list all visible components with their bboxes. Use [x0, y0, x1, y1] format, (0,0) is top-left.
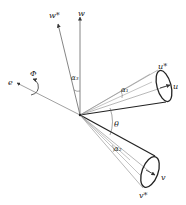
e-axis: [17, 83, 80, 115]
w-star-axis: [58, 24, 80, 115]
u-label: u: [173, 82, 178, 91]
theta-label: θ: [114, 120, 119, 129]
phi-label: Φ: [30, 69, 37, 78]
vector-diagram: w* w α₃ e Φ u* u α₁ θ α₂ v v*: [0, 0, 186, 205]
e-label: e: [8, 78, 13, 87]
alpha2-label: α₂: [114, 145, 122, 153]
v-label: v: [161, 173, 166, 182]
v-star-label: v*: [139, 191, 148, 200]
origin-point: [79, 114, 81, 116]
alpha3-label: α₃: [71, 74, 79, 82]
phi-rotation-icon: [31, 79, 38, 95]
alpha1-label: α₁: [121, 86, 129, 94]
w-star-label: w*: [49, 11, 60, 20]
u-star-label: u*: [158, 62, 167, 71]
alpha3-arc: [74, 90, 80, 91]
w-label: w: [78, 9, 85, 18]
